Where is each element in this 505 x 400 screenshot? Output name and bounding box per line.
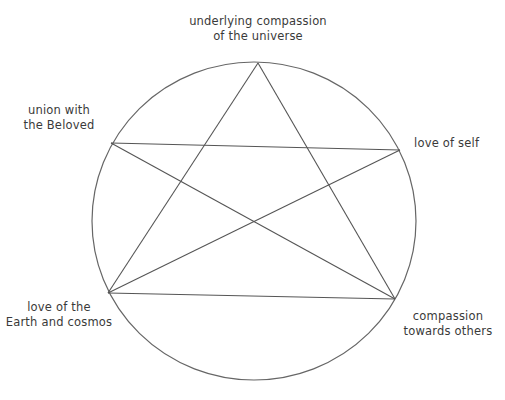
label-line-1: union with xyxy=(23,103,94,118)
pentagram-diagram xyxy=(0,0,505,400)
label-line-2: the Beloved xyxy=(23,118,94,133)
label-union-with-beloved: union with the Beloved xyxy=(23,103,94,133)
label-line-1: compassion xyxy=(404,309,493,324)
label-line-2: towards others xyxy=(404,324,493,339)
label-line-2: Earth and cosmos xyxy=(6,315,113,330)
label-line-1: underlying compassion xyxy=(189,14,327,29)
edge-upper-right-to-lower-left xyxy=(108,150,400,293)
label-underlying-compassion: underlying compassion of the universe xyxy=(189,14,327,44)
edge-top-to-lower-right xyxy=(258,63,395,299)
label-line-2: of the universe xyxy=(189,29,327,44)
edge-upper-left-to-upper-right xyxy=(111,143,400,150)
label-compassion-towards-others: compassion towards others xyxy=(404,309,493,339)
edge-lower-left-to-lower-right xyxy=(108,293,395,299)
label-line-1: love of the xyxy=(6,300,113,315)
edge-top-to-lower-left xyxy=(108,63,258,293)
edge-upper-left-to-lower-right xyxy=(111,143,395,299)
label-love-of-earth-cosmos: love of the Earth and cosmos xyxy=(6,300,113,330)
star-edges xyxy=(108,63,400,299)
label-love-of-self: love of self xyxy=(414,136,479,151)
label-line-1: love of self xyxy=(414,136,479,151)
